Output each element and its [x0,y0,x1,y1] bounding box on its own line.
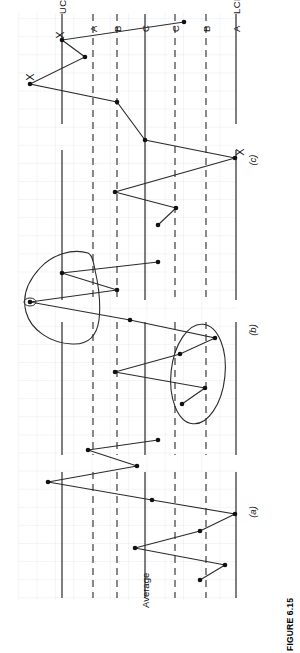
figure-container: UCL LCL A B C C B A Average X X X (c) [0,0,300,653]
figure-caption: FIGURE 6.15 [285,565,299,651]
ucl-label: UCL [57,0,68,14]
control-chart-svg: UCL LCL A B C C B A Average X X X (c) [0,0,300,653]
panel-label-b: (b) [247,324,258,336]
violation-marker-x-c2: X [24,73,36,81]
panel-label-a: (a) [247,506,258,518]
lcl-label: LCL [231,0,242,14]
panel-label-c: (c) [247,154,258,165]
zone-label-a-upper: A [88,25,99,32]
average-label: Average [140,573,151,608]
violation-marker-x-c3: X [234,148,246,156]
zone-label-a-lower: A [231,25,242,32]
zone-label-c-lower: C [170,25,181,32]
zone-label-b-lower: B [201,26,212,32]
chart-grid [18,13,237,600]
violation-marker-x-c1: X [54,31,66,39]
